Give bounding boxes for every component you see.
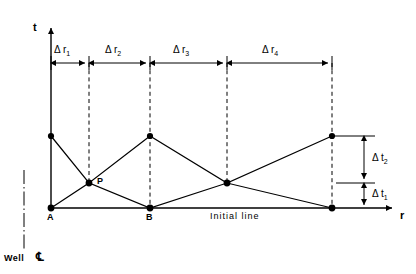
dimension-label-dr2: Δ r2 bbox=[105, 45, 121, 57]
dt1-subscript: 1 bbox=[384, 194, 388, 201]
node-dot-peak-b bbox=[147, 133, 153, 139]
dt2-subscript: 2 bbox=[384, 158, 388, 165]
characteristics-diagram: t r A B P Initial line Well ℄ Δ r1 Δ r2 … bbox=[0, 0, 416, 274]
node-dot-a bbox=[48, 205, 55, 212]
point-label-a: A bbox=[47, 213, 54, 222]
upper-characteristic-line bbox=[51, 136, 332, 183]
centerline-symbol-label: ℄ bbox=[36, 251, 44, 263]
initial-line-label: Initial line bbox=[210, 212, 260, 221]
dr3-prefix: Δ r bbox=[173, 44, 185, 55]
diagram-canvas bbox=[0, 0, 416, 274]
dimension-label-dt2: Δ t2 bbox=[372, 153, 388, 165]
node-dot-b bbox=[147, 205, 154, 212]
lower-characteristic-line bbox=[51, 183, 332, 208]
dr2-subscript: 2 bbox=[117, 50, 121, 57]
dt1-prefix: Δ t bbox=[372, 188, 384, 199]
point-label-p: P bbox=[97, 177, 103, 186]
dt2-prefix: Δ t bbox=[372, 152, 384, 163]
node-dot-top-left bbox=[48, 133, 54, 139]
dr4-subscript: 4 bbox=[274, 50, 278, 57]
dr1-subscript: 1 bbox=[66, 50, 70, 57]
t-axis-label: t bbox=[33, 22, 37, 33]
t-dimension-group bbox=[334, 136, 375, 205]
node-dot-p bbox=[86, 180, 93, 187]
dimension-label-dr1: Δ r1 bbox=[54, 45, 70, 57]
well-label: Well bbox=[4, 254, 24, 263]
point-label-b: B bbox=[146, 213, 153, 222]
dr3-subscript: 3 bbox=[185, 50, 189, 57]
dimension-label-dr4: Δ r4 bbox=[262, 45, 278, 57]
dimension-label-dr3: Δ r3 bbox=[173, 45, 189, 57]
node-dot-mid-cross bbox=[224, 180, 231, 187]
characteristic-lines bbox=[51, 136, 332, 208]
r-dimension-arrows bbox=[51, 56, 332, 70]
node-dots bbox=[48, 133, 336, 212]
dashed-station-lines bbox=[89, 63, 332, 208]
dr2-prefix: Δ r bbox=[105, 44, 117, 55]
dimension-label-dt1: Δ t1 bbox=[372, 189, 388, 201]
r-axis-label: r bbox=[400, 210, 404, 221]
node-dot-bottom-right bbox=[329, 205, 336, 212]
dr4-prefix: Δ r bbox=[262, 44, 274, 55]
dr1-prefix: Δ r bbox=[54, 44, 66, 55]
